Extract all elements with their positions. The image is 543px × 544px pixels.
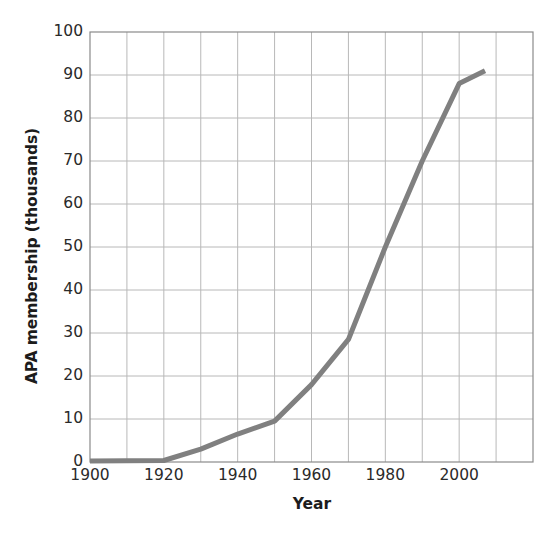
data-series — [90, 71, 485, 461]
x-tick-label: 2000 — [414, 468, 504, 484]
gridlines — [90, 32, 533, 462]
plot-area — [0, 0, 543, 544]
series-line-0 — [90, 71, 485, 461]
chart-figure: 0102030405060708090100 APA membership (t… — [0, 0, 543, 544]
